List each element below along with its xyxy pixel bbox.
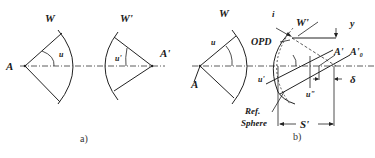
caption-a: a) xyxy=(80,133,88,145)
label-w-b: W xyxy=(219,7,230,19)
panel-b: W u A i W' y OPD A' A'₀ u' u" δ Ref. Sph… xyxy=(190,7,375,143)
label-s-prime: S' xyxy=(300,118,309,130)
s-prime-arrowhead-left-icon xyxy=(279,122,284,126)
opd-leader xyxy=(280,40,290,42)
label-u-prime: u' xyxy=(115,54,122,63)
ray-to-a0 xyxy=(280,55,350,94)
wavefront-w-b xyxy=(232,30,247,104)
label-u-prime-b: u' xyxy=(258,75,265,84)
label-w-prime: W' xyxy=(120,12,133,24)
wavefront-w xyxy=(58,30,73,104)
angle-arc-u-b xyxy=(226,46,232,66)
label-w-prime-b: W' xyxy=(296,16,309,28)
label-u-b: u xyxy=(211,38,216,47)
label-y: y xyxy=(349,18,355,29)
ray-lower-b xyxy=(200,66,234,98)
label-a0-prime: A'₀ xyxy=(349,46,363,57)
point-a-b xyxy=(199,65,202,68)
label-opd: OPD xyxy=(251,36,272,47)
panel-a: W W' u u' A A' a) xyxy=(5,12,170,145)
y-arrow-head-icon xyxy=(334,33,338,38)
caption-b: b) xyxy=(293,131,301,143)
label-u-double-prime: u" xyxy=(306,90,315,99)
s-prime-arrowhead-right-icon xyxy=(329,122,334,126)
label-delta: δ xyxy=(350,73,356,85)
label-a-b: A xyxy=(190,78,198,90)
label-sphere: Sphere xyxy=(241,118,267,128)
label-w: W xyxy=(45,12,56,24)
incidence-arrow-icon xyxy=(286,32,292,37)
label-a-prime-b: A' xyxy=(333,46,344,57)
ray-lower xyxy=(25,66,60,102)
angle-arc-u-prime xyxy=(126,48,127,66)
delta-arrowhead-left-icon xyxy=(315,77,319,81)
delta-arrowhead-right-icon xyxy=(334,77,338,81)
ray-upper xyxy=(25,33,62,66)
ray-upper-b xyxy=(200,36,236,66)
label-i: i xyxy=(272,9,275,19)
ray-lower-prime xyxy=(114,66,152,91)
label-a-prime: A' xyxy=(159,47,170,59)
label-a: A xyxy=(5,60,13,72)
point-a-prime xyxy=(151,65,154,68)
label-u: u xyxy=(59,50,64,59)
angle-arc-u xyxy=(42,51,54,66)
angle-arc-u-prime-b xyxy=(293,55,296,66)
label-ref: Ref. xyxy=(244,106,260,116)
optical-wavefront-diagram: W W' u u' A A' a) xyxy=(0,0,375,158)
point-a xyxy=(24,65,27,68)
